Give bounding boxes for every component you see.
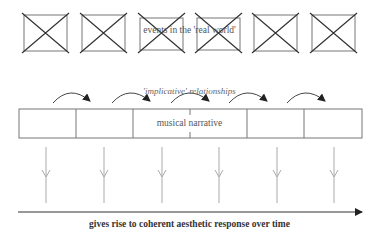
caption: gives rise to coherent aesthetic respons…	[0, 219, 379, 229]
down-arrow-1	[42, 147, 50, 203]
down-arrow-4	[215, 147, 223, 203]
events-label: events in the 'real world'	[0, 25, 379, 35]
down-arrow-2	[100, 147, 108, 203]
narrative-label: musical narrative	[0, 118, 379, 128]
downward-arrows	[42, 147, 338, 203]
implicative-label: 'implicative' relationships	[0, 86, 379, 96]
down-arrow-5	[273, 147, 281, 203]
down-arrow-3	[158, 147, 166, 203]
down-arrow-6	[330, 147, 338, 203]
